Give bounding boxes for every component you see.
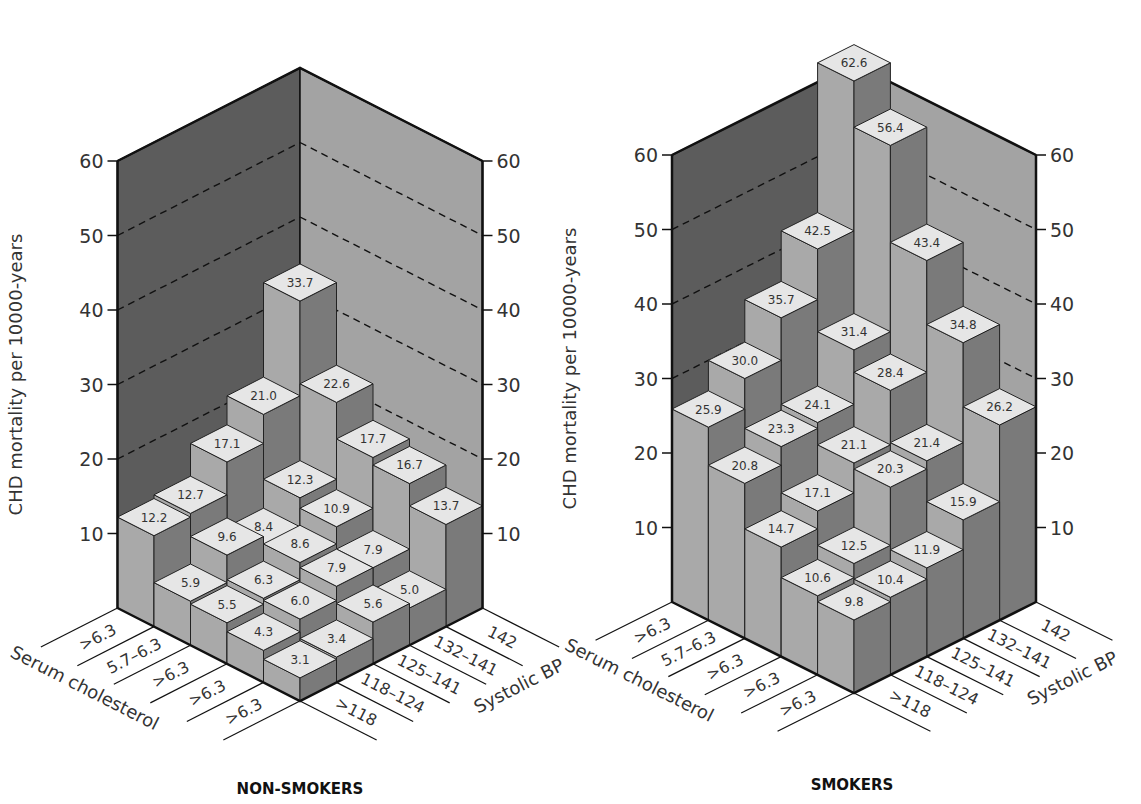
bar-value-label: 7.9 xyxy=(363,543,382,557)
bar-value-label: 62.6 xyxy=(841,56,868,70)
bar-value-label: 5.0 xyxy=(400,583,419,597)
y-tick-label-left: 20 xyxy=(79,448,103,470)
bar-value-label: 5.9 xyxy=(181,576,200,590)
y-tick-label-left: 10 xyxy=(634,517,658,539)
bar-value-label: 6.0 xyxy=(290,594,309,608)
bar-left-face xyxy=(672,409,708,620)
plot-area: >6.35.7–6.3>6.3>6.3>6.3>118118–124125–14… xyxy=(5,68,568,740)
bp-category-label: 142 xyxy=(484,622,520,653)
bar-value-label: 10.4 xyxy=(877,573,904,587)
bar-value-label: 16.7 xyxy=(396,458,423,472)
bar-value-label: 17.7 xyxy=(360,432,387,446)
bar-value-label: 10.9 xyxy=(323,502,350,516)
y-tick-label-right: 50 xyxy=(497,225,521,247)
y-tick-label-left: 30 xyxy=(634,368,658,390)
bar-value-label: 9.6 xyxy=(217,530,236,544)
y-axis-title: CHD mortality per 10000-years xyxy=(559,228,580,510)
bar-value-label: 12.7 xyxy=(177,488,204,502)
y-axis-title: CHD mortality per 10000-years xyxy=(5,234,26,516)
bar-value-label: 20.3 xyxy=(877,462,904,476)
bp-category-label: >118 xyxy=(332,693,380,730)
bar-value-label: 17.1 xyxy=(804,486,831,500)
bar-value-label: 22.6 xyxy=(323,377,350,391)
bar-value-label: 5.5 xyxy=(217,598,236,612)
bar-value-label: 42.5 xyxy=(804,224,831,238)
y-tick-label-right: 30 xyxy=(497,374,521,396)
bar-value-label: 28.4 xyxy=(877,366,904,380)
y-tick-label-left: 30 xyxy=(79,374,103,396)
bar-value-label: 13.7 xyxy=(433,499,460,513)
bar-value-label: 17.1 xyxy=(214,437,241,451)
bar-value-label: 10.6 xyxy=(804,571,831,585)
bar-value-label: 56.4 xyxy=(877,121,904,135)
y-tick-label-left: 20 xyxy=(634,442,658,464)
y-tick-label-right: 20 xyxy=(497,448,521,470)
bar-value-label: 11.9 xyxy=(913,543,940,557)
y-tick-label-left: 50 xyxy=(634,219,658,241)
smokers-chart: >6.35.7–6.3>6.3>6.3>6.3>118118–124125–14… xyxy=(559,45,1121,794)
bar-value-label: 3.1 xyxy=(290,653,309,667)
y-tick-label-left: 60 xyxy=(79,150,103,172)
bar-value-label: 6.3 xyxy=(254,573,273,587)
y-tick-label-right: 60 xyxy=(1050,144,1074,166)
bar-value-label: 34.8 xyxy=(950,318,977,332)
y-tick-label-right: 10 xyxy=(497,523,521,545)
bar-value-label: 21.0 xyxy=(250,389,277,403)
bar-value-label: 31.4 xyxy=(841,325,868,339)
bar: 9.8 xyxy=(818,584,891,693)
bar-value-label: 12.3 xyxy=(287,473,314,487)
bar-value-label: 12.2 xyxy=(141,511,168,525)
bar-value-label: 43.4 xyxy=(913,236,940,250)
plot-area: >6.35.7–6.3>6.3>6.3>6.3>118118–124125–14… xyxy=(559,45,1121,732)
bar-value-label: 4.3 xyxy=(254,625,273,639)
y-tick-label-left: 50 xyxy=(79,225,103,247)
bar-value-label: 21.1 xyxy=(841,438,868,452)
y-tick-label-right: 10 xyxy=(1050,517,1074,539)
bar-left-face xyxy=(745,529,781,657)
y-tick-label-left: 10 xyxy=(79,523,103,545)
bar-value-label: 5.6 xyxy=(363,597,382,611)
y-tick-label-left: 60 xyxy=(634,144,658,166)
bar-right-face xyxy=(1000,407,1036,620)
y-tick-label-right: 20 xyxy=(1050,442,1074,464)
bar-value-label: 3.4 xyxy=(327,632,346,646)
bar-value-label: 20.8 xyxy=(731,459,758,473)
bar-value-label: 30.0 xyxy=(731,354,758,368)
bar-value-label: 14.7 xyxy=(768,522,795,536)
bar-value-label: 24.1 xyxy=(804,398,831,412)
bar-right-face xyxy=(963,502,999,639)
y-tick-label-right: 40 xyxy=(1050,293,1074,315)
y-tick-label-right: 60 xyxy=(497,150,521,172)
bar-value-label: 8.6 xyxy=(290,537,309,551)
bar-value-label: 33.7 xyxy=(287,276,314,290)
bar-value-label: 12.5 xyxy=(841,539,868,553)
cholesterol-category-label: >6.3 xyxy=(631,613,674,647)
panel-title-smokers: SMOKERS xyxy=(811,776,894,794)
bar-value-label: 9.8 xyxy=(844,595,863,609)
y-tick-label-right: 50 xyxy=(1050,219,1074,241)
y-tick-label-left: 40 xyxy=(79,299,103,321)
non-smokers-chart: >6.35.7–6.3>6.3>6.3>6.3>118118–124125–14… xyxy=(5,68,568,798)
cholesterol-category-label: >6.3 xyxy=(776,686,819,720)
bar-value-label: 15.9 xyxy=(950,495,977,509)
panel-title-non-smokers: NON-SMOKERS xyxy=(237,780,364,798)
y-tick-label-right: 40 xyxy=(497,299,521,321)
bar-value-label: 21.4 xyxy=(913,436,940,450)
y-tick-label-right: 30 xyxy=(1050,368,1074,390)
chd-mortality-figure: >6.35.7–6.3>6.3>6.3>6.3>118118–124125–14… xyxy=(0,0,1141,804)
bar-value-label: 23.3 xyxy=(768,422,795,436)
bar-value-label: 7.9 xyxy=(327,561,346,575)
bar-left-face xyxy=(708,465,744,638)
cholesterol-category-label: >6.3 xyxy=(740,668,783,702)
y-tick-label-left: 40 xyxy=(634,293,658,315)
bp-category-label: >118 xyxy=(886,685,934,722)
bar-value-label: 25.9 xyxy=(695,403,722,417)
bar-value-label: 26.2 xyxy=(986,400,1013,414)
bar-value-label: 35.7 xyxy=(768,293,795,307)
cholesterol-category-label: >6.3 xyxy=(703,650,746,684)
bar-value-label: 8.4 xyxy=(254,520,273,534)
bar-right-face xyxy=(446,506,483,627)
